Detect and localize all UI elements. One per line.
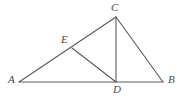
segment-ac — [19, 17, 116, 82]
vertex-label-e: E — [61, 34, 68, 45]
vertex-label-d: D — [113, 84, 121, 95]
segment-cb — [116, 17, 163, 82]
geometry-figure: A B C D E — [0, 0, 182, 96]
segments-group — [19, 17, 163, 82]
vertex-label-a: A — [8, 74, 15, 85]
vertex-label-c: C — [111, 2, 118, 13]
segment-ed — [72, 48, 116, 82]
figure-canvas — [0, 0, 182, 96]
vertex-label-b: B — [168, 74, 175, 85]
